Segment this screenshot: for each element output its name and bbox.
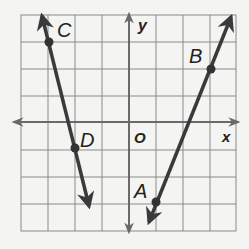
label-a: A [133,180,147,202]
point-b [207,65,216,74]
point-a [152,198,161,207]
origin-label: O [134,129,146,146]
label-c: C [57,19,72,41]
label-d: D [80,129,94,151]
x-axis-label: x [221,128,231,145]
y-axis-label: y [137,17,148,34]
coordinate-plane: y x O C D B A [0,0,249,249]
point-d [71,144,80,153]
point-c [45,38,54,47]
label-b: B [189,45,202,67]
